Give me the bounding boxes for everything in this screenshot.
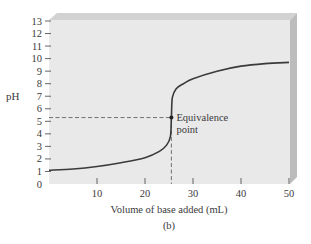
y-tick-label: 4 xyxy=(37,128,43,139)
y-tick-label: 5 xyxy=(37,116,42,127)
y-tick-label: 1 xyxy=(37,166,42,177)
equivalence-point-marker xyxy=(169,116,173,120)
y-tick-label: 12 xyxy=(32,28,43,39)
y-tick-label: 9 xyxy=(37,66,42,77)
y-axis-label: pH xyxy=(6,90,20,102)
y-tick-label: 13 xyxy=(32,16,43,27)
titration-chart: 012345678910111213 1020304050 Equivalenc… xyxy=(0,0,311,244)
x-tick-label: 10 xyxy=(92,188,103,199)
x-tick-label: 40 xyxy=(236,188,247,199)
x-tick-label: 20 xyxy=(140,188,151,199)
plot-area xyxy=(49,20,290,184)
y-tick-label: 6 xyxy=(37,103,42,114)
plot-bevel-right xyxy=(290,13,297,184)
y-axis: 012345678910111213 xyxy=(32,16,52,190)
x-axis-label: Volume of base added (mL) xyxy=(110,204,228,216)
y-tick-label: 8 xyxy=(37,78,42,89)
y-tick-label: 7 xyxy=(37,91,42,102)
y-tick-label: 10 xyxy=(32,53,43,64)
y-tick-label: 2 xyxy=(37,153,42,164)
y-tick-label: 11 xyxy=(32,41,42,52)
y-tick-label: 3 xyxy=(37,141,42,152)
chart-subtitle: (b) xyxy=(163,220,176,232)
equivalence-label: Equivalence xyxy=(176,112,228,123)
x-tick-label: 50 xyxy=(284,188,295,199)
x-tick-label: 30 xyxy=(188,188,199,199)
equivalence-label-line2: point xyxy=(176,124,198,135)
y-tick-label: 0 xyxy=(37,179,42,190)
plot-bevel-top xyxy=(49,13,297,20)
